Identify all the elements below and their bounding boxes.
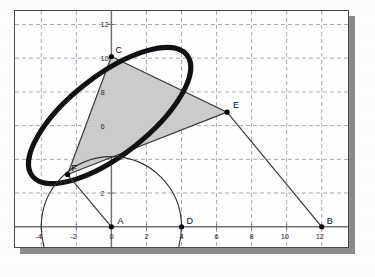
y-tick-label: 2: [100, 189, 104, 198]
x-tick-label: 12: [316, 232, 324, 241]
segment-segment-A-F: [68, 175, 112, 227]
plot-canvas[interactable]: -4-20246810122681012 ADBCEF: [15, 11, 348, 247]
x-tick-label: -4: [35, 232, 42, 241]
point-label-b: B: [327, 216, 333, 226]
point-marker-c[interactable]: [109, 54, 114, 59]
x-tick-label: 4: [180, 232, 184, 241]
point-marker-e[interactable]: [224, 110, 229, 115]
point-label-c: C: [115, 45, 122, 55]
y-tick-label: 8: [100, 88, 104, 97]
segment-segment-E-B: [227, 112, 322, 227]
figure-frame: -4-20246810122681012 ADBCEF: [14, 10, 349, 248]
point-marker-d[interactable]: [179, 224, 184, 229]
y-tick-label: 6: [100, 122, 104, 131]
point-label-e: E: [233, 100, 239, 110]
x-tick-label: 2: [144, 232, 148, 241]
y-tick-label: 10: [100, 54, 108, 63]
point-label-f: F: [72, 163, 78, 173]
point-label-a: A: [117, 216, 123, 226]
figure-stage: -4-20246810122681012 ADBCEF: [0, 0, 375, 277]
x-tick-label: -2: [70, 232, 77, 241]
x-tick-label: 0: [109, 232, 113, 241]
x-tick-label: 10: [281, 232, 289, 241]
y-tick-label: 12: [100, 20, 108, 29]
point-marker-f[interactable]: [65, 172, 70, 177]
x-tick-label: 6: [215, 232, 219, 241]
point-marker-a[interactable]: [109, 224, 114, 229]
x-tick-label: 8: [250, 232, 254, 241]
point-label-d: D: [187, 216, 194, 226]
triangle-shape: [68, 57, 227, 175]
point-marker-b[interactable]: [319, 224, 324, 229]
shapes: [15, 24, 322, 247]
